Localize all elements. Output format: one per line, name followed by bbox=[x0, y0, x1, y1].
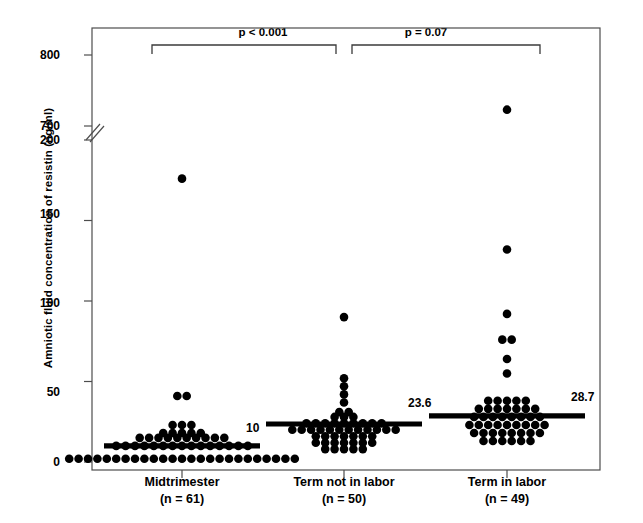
y-axis-break-icon bbox=[86, 124, 104, 142]
data-point bbox=[281, 454, 290, 463]
data-point bbox=[262, 454, 271, 463]
data-point bbox=[475, 421, 484, 430]
data-point bbox=[288, 426, 297, 435]
data-point bbox=[531, 421, 540, 430]
data-point bbox=[182, 392, 191, 401]
data-point bbox=[112, 454, 121, 463]
significance-brackets bbox=[152, 45, 540, 54]
data-point bbox=[340, 398, 349, 407]
data-point bbox=[145, 434, 154, 443]
data-point bbox=[150, 454, 159, 463]
data-point bbox=[187, 421, 196, 430]
data-point bbox=[225, 454, 234, 463]
data-point bbox=[340, 390, 349, 399]
data-point bbox=[465, 421, 474, 430]
data-point-group bbox=[65, 105, 549, 463]
scatter-plot-canvas bbox=[0, 0, 643, 523]
data-point bbox=[479, 429, 488, 438]
data-point bbox=[512, 405, 521, 414]
data-point bbox=[503, 105, 512, 114]
data-point bbox=[187, 454, 196, 463]
data-point bbox=[173, 392, 182, 401]
data-point bbox=[74, 454, 83, 463]
data-point bbox=[168, 454, 177, 463]
x-axis-ticks bbox=[182, 470, 507, 478]
data-point bbox=[507, 335, 516, 344]
data-point bbox=[531, 405, 540, 414]
data-point bbox=[498, 429, 507, 438]
data-point bbox=[335, 408, 344, 417]
data-point bbox=[522, 397, 531, 406]
data-point bbox=[178, 429, 187, 438]
data-point bbox=[503, 310, 512, 319]
data-point bbox=[493, 405, 502, 414]
data-point bbox=[484, 405, 493, 414]
data-point bbox=[211, 434, 220, 443]
data-point bbox=[140, 454, 149, 463]
data-point bbox=[159, 454, 168, 463]
data-point bbox=[489, 429, 498, 438]
data-point bbox=[503, 355, 512, 364]
data-point bbox=[121, 454, 130, 463]
data-point bbox=[493, 421, 502, 430]
data-point bbox=[93, 454, 102, 463]
data-point bbox=[503, 405, 512, 414]
data-point bbox=[503, 397, 512, 406]
data-point bbox=[475, 405, 484, 414]
data-point bbox=[517, 437, 526, 446]
data-point bbox=[536, 429, 545, 438]
data-point bbox=[131, 454, 140, 463]
data-point bbox=[344, 408, 353, 417]
data-point bbox=[526, 429, 535, 438]
data-point bbox=[244, 454, 253, 463]
data-point bbox=[391, 426, 400, 435]
data-point bbox=[507, 437, 516, 446]
data-point bbox=[272, 454, 281, 463]
data-point bbox=[187, 429, 196, 438]
data-point bbox=[512, 397, 521, 406]
data-point bbox=[135, 434, 144, 443]
data-point bbox=[540, 421, 549, 430]
data-point bbox=[489, 437, 498, 446]
data-point bbox=[291, 454, 300, 463]
data-point bbox=[470, 429, 479, 438]
data-point bbox=[498, 437, 507, 446]
data-point bbox=[340, 313, 349, 322]
data-point bbox=[522, 421, 531, 430]
data-point bbox=[493, 397, 502, 406]
data-point bbox=[84, 454, 93, 463]
data-point bbox=[197, 429, 206, 438]
y-axis-ticks bbox=[84, 55, 92, 462]
data-point bbox=[484, 421, 493, 430]
figure-container: Amniotic fluid concentration of resistin… bbox=[0, 0, 643, 523]
data-point bbox=[503, 245, 512, 254]
data-point bbox=[503, 421, 512, 430]
data-point bbox=[340, 382, 349, 391]
data-point bbox=[253, 454, 262, 463]
data-point bbox=[197, 454, 206, 463]
data-point bbox=[340, 374, 349, 383]
data-point bbox=[512, 421, 521, 430]
data-point bbox=[159, 429, 168, 438]
data-point bbox=[178, 174, 187, 183]
data-point bbox=[168, 421, 177, 430]
data-point bbox=[507, 429, 516, 438]
data-point bbox=[178, 421, 187, 430]
data-point bbox=[215, 454, 224, 463]
data-point bbox=[234, 454, 243, 463]
data-point bbox=[503, 369, 512, 378]
data-point bbox=[206, 454, 215, 463]
data-point bbox=[65, 454, 74, 463]
data-point bbox=[178, 454, 187, 463]
data-point bbox=[498, 335, 507, 344]
data-point bbox=[526, 437, 535, 446]
data-point bbox=[517, 429, 526, 438]
data-point bbox=[522, 405, 531, 414]
data-point bbox=[479, 437, 488, 446]
data-point bbox=[103, 454, 112, 463]
data-point bbox=[484, 397, 493, 406]
data-point bbox=[220, 434, 229, 443]
data-point bbox=[168, 429, 177, 438]
